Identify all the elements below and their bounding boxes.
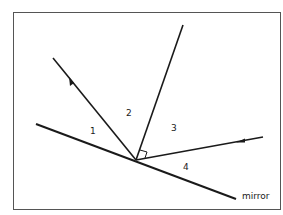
reflected-ray [53,58,136,160]
reflected-arrow-icon [69,77,74,86]
diagram-frame [14,13,281,210]
mirror-label: mirror [242,191,270,201]
mirror-line [36,124,236,199]
angle-label-1: 1 [90,126,96,136]
angle-label-2: 2 [126,108,132,118]
normal-line [136,25,183,160]
angle-label-3: 3 [171,123,177,133]
reflection-diagram: 1 2 3 4 mirror [0,0,283,215]
right-angle-marker-icon [140,150,147,158]
angle-label-4: 4 [183,162,189,172]
